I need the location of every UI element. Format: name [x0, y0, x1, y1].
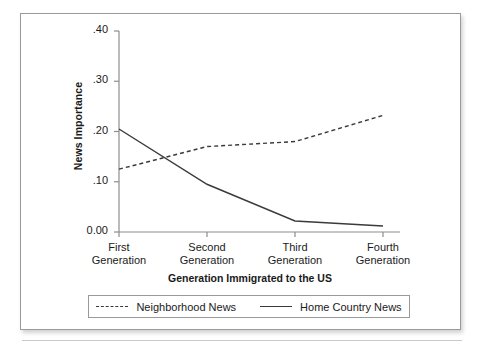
y-axis-tick-label: 0.00	[74, 224, 108, 236]
series-line-neighborhood-news	[119, 115, 383, 169]
legend-label: Home Country News	[300, 301, 401, 313]
x-axis-tick-label: FourthGeneration	[328, 241, 438, 267]
legend-entry[interactable]: Neighborhood News	[96, 301, 236, 313]
x-axis-tick-label-line2: Generation	[328, 254, 438, 267]
line-chart: News Importance .40.30.20.100.00 FirstGe…	[0, 0, 480, 350]
chart-series-group	[119, 115, 383, 226]
legend-line-sample-icon	[260, 303, 292, 311]
y-axis-tick-label: .30	[74, 73, 108, 85]
legend-entry[interactable]: Home Country News	[260, 301, 401, 313]
y-axis-tick-label: .20	[74, 124, 108, 136]
y-axis-tick-label: .40	[74, 23, 108, 35]
x-axis-title: Generation Immigrated to the US	[60, 272, 440, 284]
legend-line-sample-icon	[96, 303, 128, 311]
legend-label: Neighborhood News	[136, 301, 236, 313]
x-axis-tick-label-line1: Fourth	[328, 241, 438, 254]
y-axis-tick-label: .10	[74, 174, 108, 186]
y-axis-tick-marks	[114, 31, 119, 232]
chart-legend: Neighborhood NewsHome Country News	[88, 295, 410, 318]
x-axis-tick-marks	[119, 232, 383, 237]
